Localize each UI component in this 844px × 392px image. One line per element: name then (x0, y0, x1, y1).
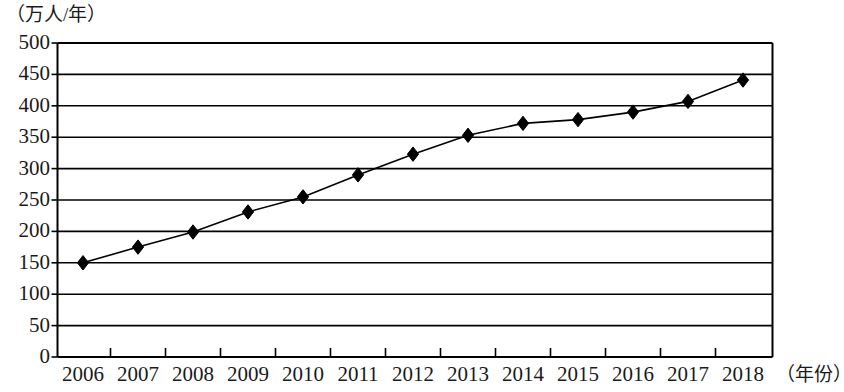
gridlines (58, 43, 773, 326)
x-axis-ticks (111, 348, 716, 357)
data-line (83, 80, 743, 263)
data-point-markers (77, 73, 748, 270)
